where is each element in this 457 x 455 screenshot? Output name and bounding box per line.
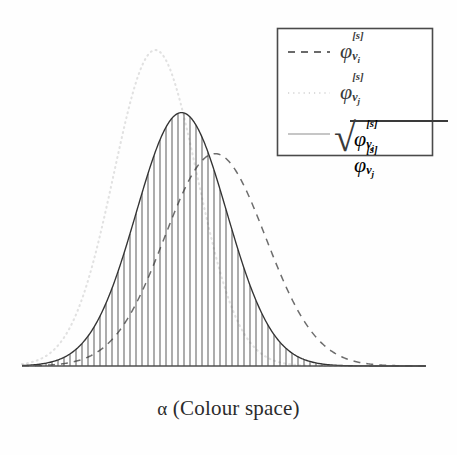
legend-subscript-0: vi bbox=[352, 49, 360, 65]
x-axis-caption: α (Colour space) bbox=[0, 396, 457, 421]
curve-phi-vi bbox=[22, 154, 426, 366]
legend-phi-glyph-0: φ bbox=[340, 38, 352, 63]
legend-superscript-2b: [s] bbox=[366, 143, 378, 155]
figure-page: φ[s]vi φ[s]vj √ φ[s]viφ[s]vj α (Colour s… bbox=[0, 0, 457, 455]
x-axis-caption-text: (Colour space) bbox=[173, 396, 300, 420]
legend-phi-glyph-1: φ bbox=[340, 79, 352, 104]
sqrt-radical-icon: √ bbox=[334, 118, 356, 158]
legend-superscript-2a: [s] bbox=[366, 117, 378, 129]
legend-subscript-1: vj bbox=[352, 90, 360, 106]
legend-superscript-0: [s] bbox=[352, 29, 364, 41]
legend-phi-glyph-2b: φ bbox=[354, 152, 366, 177]
distribution-plot bbox=[0, 0, 457, 455]
sqrt-overbar bbox=[350, 120, 448, 122]
legend-phi-glyph-2a: φ bbox=[354, 126, 366, 151]
legend-subscript-2b: vj bbox=[366, 163, 374, 179]
legend-superscript-1: [s] bbox=[352, 70, 364, 82]
alpha-symbol: α bbox=[157, 398, 167, 419]
legend-label-phi-vj: φ[s]vj bbox=[340, 79, 352, 105]
legend-label-phi-vi: φ[s]vi bbox=[340, 38, 352, 64]
